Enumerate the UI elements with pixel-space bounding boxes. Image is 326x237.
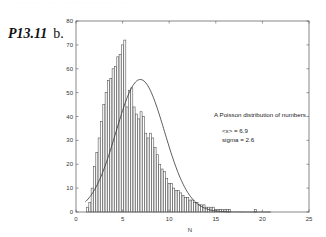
histogram-bar [159,164,161,212]
histogram-bar [180,193,182,212]
histogram-bar [147,138,149,212]
histogram-bar [89,202,91,212]
histogram-bar [135,114,137,212]
histogram-bar [156,155,158,212]
histogram-bar [105,93,107,212]
histogram-bar [189,200,191,212]
histogram-bar [91,188,93,212]
y-tick-label: 60 [66,66,73,72]
histogram-bar [154,148,156,212]
histogram-bar [161,169,163,212]
x-tick-label: 10 [166,216,173,222]
x-tick-label: 5 [121,216,125,222]
histogram-bar [128,90,130,212]
histogram-bar [166,179,168,212]
y-tick-label: 20 [66,161,73,167]
histogram-bar [114,66,116,212]
histogram-bar [140,112,142,212]
histogram-bar [121,45,123,212]
histogram-bar [194,202,196,212]
histogram-bar [187,198,189,212]
y-tick-label: 50 [66,90,73,96]
y-tick-label: 10 [66,185,73,191]
histogram-bar [163,171,165,212]
histogram-bar [131,88,133,212]
x-tick-label: 20 [259,216,266,222]
y-tick-label: 30 [66,137,73,143]
x-tick-label: 25 [306,216,313,222]
annotation-sigma: sigma = 2.6 [222,136,255,143]
histogram-bar [205,207,207,212]
histogram-bar [173,188,175,212]
y-tick-label: 80 [66,18,73,24]
histogram-bar [133,107,135,212]
histogram-bar [124,40,126,212]
histogram-bar [145,133,147,212]
histogram-bar [98,138,100,212]
histogram-bar [103,105,105,212]
histogram-bar [149,133,151,212]
x-tick-label: 0 [74,216,78,222]
histogram-bar [119,54,121,212]
histogram-bar [175,191,177,212]
histogram-bar [182,195,184,212]
y-tick-label: 40 [66,114,73,120]
histogram-bar [191,200,193,212]
histogram-chart: 01020304050607080 0510152025 N A Poisson… [0,0,326,237]
histogram-bar [117,57,119,212]
y-tick-label: 0 [70,209,74,215]
annotation-title: A Poisson distribution of numbers [214,111,306,118]
histogram-bar [177,191,179,212]
histogram-bar [212,207,214,212]
histogram-bar [170,183,172,212]
histogram-bar [107,81,109,212]
histogram-bar [168,183,170,212]
histogram-bar [86,207,88,212]
histogram-bar [126,107,128,212]
histogram-bar [142,117,144,213]
histogram-bar [110,78,112,212]
histogram-bar [100,121,102,212]
histogram-bar [152,138,154,212]
histogram-bar [96,152,98,212]
annotation-mean: <x> = 6.9 [222,127,249,134]
x-tick-label: 15 [212,216,219,222]
x-axis-label: N [188,227,192,233]
y-tick-label: 70 [66,42,73,48]
histogram-bar [138,119,140,212]
histogram-bar [184,198,186,212]
